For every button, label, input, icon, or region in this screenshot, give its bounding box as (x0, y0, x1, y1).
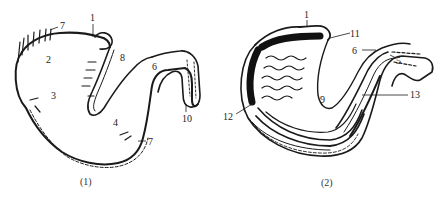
label-12: 12 (223, 111, 233, 122)
label-2: 2 (46, 54, 51, 65)
label-1: 1 (90, 12, 95, 23)
panel-1-caption: (1) (80, 176, 92, 188)
label-6: 6 (152, 61, 157, 72)
panel-1-drawing (16, 29, 200, 168)
stomach-outer-dashes (244, 110, 358, 153)
label-6: 6 (352, 45, 357, 56)
label-10: 10 (182, 113, 192, 124)
label-4: 4 (113, 117, 118, 128)
stomach-diagram: 7 1 8 2 3 6 4 10 7 (1) (0, 0, 447, 202)
panel-2-caption: (2) (321, 177, 333, 189)
gastric-vessels (30, 62, 131, 140)
dark-mucosa-band (250, 36, 320, 102)
label-5: 5 (396, 55, 401, 66)
panel-1-leaders (50, 24, 186, 141)
label-1: 1 (304, 9, 309, 20)
label-8: 8 (120, 52, 125, 63)
label-13: 13 (410, 89, 420, 100)
label-11: 11 (350, 28, 360, 39)
label-7-top: 7 (60, 20, 65, 31)
label-3: 3 (51, 90, 56, 101)
panel-2-drawing (241, 26, 433, 156)
label-9: 9 (320, 94, 325, 105)
label-7-bottom: 7 (148, 136, 153, 147)
